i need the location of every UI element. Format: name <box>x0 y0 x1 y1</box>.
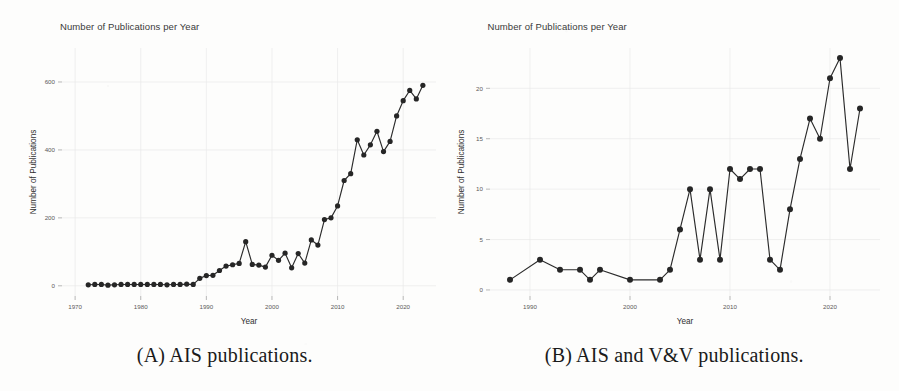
data-point-marker <box>105 283 110 288</box>
data-point-marker <box>847 166 853 172</box>
data-point-marker <box>263 265 268 270</box>
data-point-marker <box>328 215 333 220</box>
data-point-marker <box>797 156 803 162</box>
data-point-marker <box>99 282 104 287</box>
data-point-marker <box>204 273 209 278</box>
data-point-marker <box>132 282 137 287</box>
data-point-marker <box>138 282 143 287</box>
data-point-marker <box>737 176 743 182</box>
data-point-marker <box>707 186 713 192</box>
data-point-marker <box>717 257 723 263</box>
data-point-marker <box>289 265 294 270</box>
data-point-marker <box>355 137 360 142</box>
y-axis-tick-label: 0 <box>479 286 483 293</box>
data-point-marker <box>230 262 235 267</box>
figure-panel-b: Number of Publications per Year 05101520… <box>450 0 899 391</box>
x-axis-tick-label: 1980 <box>134 303 148 310</box>
data-point-marker <box>178 282 183 287</box>
data-point-marker <box>507 277 513 283</box>
data-point-marker <box>401 98 406 103</box>
y-axis-tick-label: 5 <box>479 236 483 243</box>
figure-caption-b: (B) AIS and V&V publications. <box>450 344 899 367</box>
data-point-marker <box>727 166 733 172</box>
data-point-marker <box>217 268 222 273</box>
y-axis-tick-label: 0 <box>52 282 56 289</box>
data-point-marker <box>296 251 301 256</box>
data-point-marker <box>112 282 117 287</box>
data-point-marker <box>777 267 783 273</box>
y-axis-tick-label: 600 <box>45 78 56 85</box>
x-axis-title: Year <box>676 317 693 326</box>
data-point-marker <box>374 129 379 134</box>
data-point-marker <box>282 251 287 256</box>
data-point-marker <box>697 257 703 263</box>
y-axis-tick-label: 200 <box>45 214 56 221</box>
data-point-marker <box>171 282 176 287</box>
data-point-marker <box>269 253 274 258</box>
y-axis-tick-label: 15 <box>476 135 483 142</box>
data-point-marker <box>210 273 215 278</box>
x-axis-tick-label: 1990 <box>199 303 213 310</box>
data-point-marker <box>420 83 425 88</box>
data-point-marker <box>627 277 633 283</box>
data-point-marker <box>250 262 255 267</box>
data-point-marker <box>767 257 773 263</box>
data-point-marker <box>158 282 163 287</box>
data-point-marker <box>243 239 248 244</box>
data-point-marker <box>747 166 753 172</box>
data-point-marker <box>348 171 353 176</box>
data-point-marker <box>387 139 392 144</box>
y-axis-title: Number of Publications <box>29 130 38 215</box>
data-point-marker <box>667 267 673 273</box>
data-point-marker <box>197 276 202 281</box>
data-point-marker <box>256 262 261 267</box>
data-point-marker <box>807 116 813 122</box>
x-axis-tick-label: 1990 <box>523 303 537 310</box>
data-point-marker <box>191 282 196 287</box>
data-point-marker <box>315 242 320 247</box>
y-axis-tick-label: 400 <box>45 146 56 153</box>
data-point-marker <box>118 282 123 287</box>
data-point-marker <box>587 277 593 283</box>
data-point-marker <box>368 142 373 147</box>
data-point-marker <box>577 267 583 273</box>
data-point-marker <box>125 282 130 287</box>
data-point-marker <box>151 282 156 287</box>
y-axis-tick-label: 20 <box>476 85 483 92</box>
x-axis-title: Year <box>241 317 258 326</box>
data-point-marker <box>237 261 242 266</box>
figure-root: Number of Publications per Year 02004006… <box>0 0 899 391</box>
y-axis-title: Number of Publications <box>457 130 466 215</box>
data-point-marker <box>342 178 347 183</box>
data-point-marker <box>322 217 327 222</box>
figure-panel-a: Number of Publications per Year 02004006… <box>0 0 450 391</box>
data-point-marker <box>309 237 314 242</box>
data-point-marker <box>407 88 412 93</box>
data-point-marker <box>276 258 281 263</box>
figure-caption-a: (A) AIS publications. <box>0 344 450 367</box>
x-axis-tick-label: 1970 <box>68 303 82 310</box>
data-point-marker <box>184 282 189 287</box>
data-point-marker <box>361 152 366 157</box>
chart-b-plot: 051015201990200020102020YearNumber of Pu… <box>450 0 899 340</box>
data-point-marker <box>557 267 563 273</box>
data-point-marker <box>687 186 693 192</box>
chart-a-plot: 0200400600197019801990200020102020YearNu… <box>0 0 449 340</box>
series-line <box>88 85 423 285</box>
series-line <box>510 58 860 280</box>
data-point-marker <box>145 282 150 287</box>
data-point-marker <box>302 260 307 265</box>
x-axis-tick-label: 2010 <box>723 303 737 310</box>
data-point-marker <box>757 166 763 172</box>
x-axis-tick-label: 2000 <box>623 303 637 310</box>
data-point-marker <box>92 282 97 287</box>
x-axis-tick-label: 2000 <box>265 303 279 310</box>
data-point-marker <box>597 267 603 273</box>
y-axis-tick-label: 10 <box>476 185 483 192</box>
data-point-marker <box>677 226 683 232</box>
x-axis-tick-label: 2020 <box>823 303 837 310</box>
data-point-marker <box>537 257 543 263</box>
data-point-marker <box>86 282 91 287</box>
data-point-marker <box>164 282 169 287</box>
data-point-marker <box>223 264 228 269</box>
